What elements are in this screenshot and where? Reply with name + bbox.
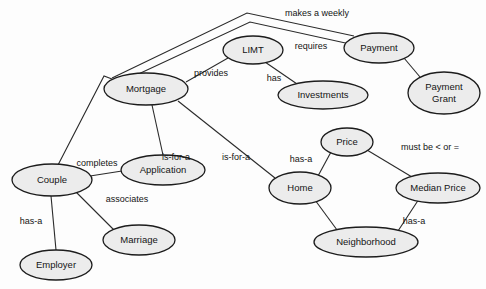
node-price[interactable]: Price <box>321 128 373 156</box>
node-payment[interactable]: Payment <box>344 33 414 63</box>
edge-e-price-median <box>367 150 412 177</box>
edge-label-e-couple-employer: has-a <box>20 216 43 226</box>
node-employer[interactable]: Employer <box>20 250 92 280</box>
node-label-mortgage: Mortgage <box>126 83 166 94</box>
diagram-svg-canvas: MortgageLIMTPaymentInvestmentsPaymentGra… <box>0 0 486 289</box>
node-label-investments: Investments <box>297 89 348 100</box>
node-label-limt: LIMT <box>242 44 264 55</box>
node-label-median_price: Median Price <box>410 182 465 193</box>
node-label-line: Payment <box>425 81 463 92</box>
node-label-application: Application <box>140 164 186 175</box>
node-label-home: Home <box>287 182 312 193</box>
edge-e-price-home <box>318 152 331 176</box>
edge-e-home-neighborhood <box>315 200 340 234</box>
edge-label-e-limt-investments-has: has <box>267 73 282 83</box>
node-marriage[interactable]: Marriage <box>103 225 175 255</box>
edge-label-e-mortgage-home: is-for-a <box>222 152 250 162</box>
edge-label-e-price-home: has-a <box>290 154 313 164</box>
edge-label-e-couple-marriage: associates <box>106 194 149 204</box>
node-home[interactable]: Home <box>269 172 331 204</box>
node-label-marriage: Marriage <box>120 234 158 245</box>
edge-e-couple-employer <box>51 196 56 250</box>
edge-e-mortgage-application <box>152 105 163 155</box>
node-label-payment: Payment <box>360 42 398 53</box>
edge-label-e-couple-application: completes <box>76 158 118 168</box>
node-label-employer: Employer <box>36 259 76 270</box>
node-mortgage[interactable]: Mortgage <box>104 73 188 105</box>
edge-label-e-mortgage-application: is-for-a <box>162 152 190 162</box>
edge-e-payment-grant <box>404 58 420 77</box>
edge-label-e-price-median: must be < or = <box>401 142 459 152</box>
node-limt[interactable]: LIMT <box>223 36 283 64</box>
edge-e-couple-application <box>90 171 122 176</box>
node-payment_grant[interactable]: PaymentGrant <box>408 72 480 114</box>
edge-label-e-mortgage-payment-requires: requires <box>295 41 328 51</box>
node-couple[interactable]: Couple <box>12 164 92 196</box>
node-label-line: Grant <box>432 93 456 104</box>
node-median_price[interactable]: Median Price <box>396 173 480 203</box>
edge-label-e-mortgage-payment-weekly: makes a weekly <box>285 8 350 18</box>
node-neighborhood[interactable]: Neighborhood <box>314 227 418 257</box>
node-investments[interactable]: Investments <box>278 81 368 109</box>
edge-label-e-mortgage-limt-provides: provides <box>194 68 229 78</box>
edge-label-e-median-neighborhood: has-a <box>403 216 426 226</box>
node-label-couple: Couple <box>37 174 67 185</box>
concept-map-diagram: MortgageLIMTPaymentInvestmentsPaymentGra… <box>0 0 486 289</box>
node-label-price: Price <box>336 136 358 147</box>
node-label-neighborhood: Neighborhood <box>336 236 396 247</box>
